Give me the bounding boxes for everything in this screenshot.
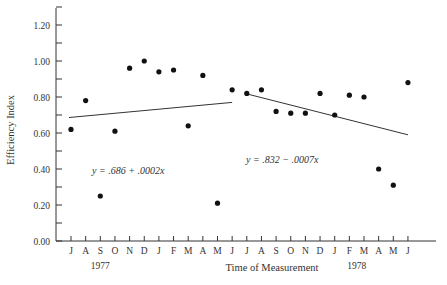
- x-tick-label: A: [375, 246, 382, 256]
- x-tick-label: M: [184, 246, 193, 256]
- x-tick-label: F: [171, 246, 176, 256]
- data-point: [347, 93, 352, 98]
- regression-equation-1: y = .686 + .0002x: [91, 165, 165, 176]
- data-point: [332, 112, 337, 117]
- y-tick-label: 1.20: [33, 21, 50, 31]
- data-point: [171, 67, 176, 72]
- data-point: [68, 127, 73, 132]
- x-tick-label: O: [112, 246, 119, 256]
- data-point: [98, 193, 103, 198]
- data-point: [391, 183, 396, 188]
- x-tick-label: D: [317, 246, 324, 256]
- x-tick-label: J: [333, 246, 337, 256]
- y-tick-label: 0.60: [33, 129, 50, 139]
- y-tick-label: 1.00: [33, 57, 50, 67]
- x-tick-label: S: [98, 246, 103, 256]
- data-point: [112, 129, 117, 134]
- regression-equation-2: y = .832 − .0007x: [245, 154, 319, 165]
- x-tick-label: O: [287, 246, 294, 256]
- data-point: [405, 80, 410, 85]
- data-point: [83, 98, 88, 103]
- x-tick-label: M: [213, 246, 222, 256]
- x-tick-label: J: [245, 246, 249, 256]
- regression-lines: [69, 93, 408, 134]
- data-point: [186, 123, 191, 128]
- axes: [56, 8, 436, 241]
- x-tick-label: M: [389, 246, 398, 256]
- regression-line-1: [69, 102, 232, 117]
- y-tick-label: 0.40: [33, 165, 50, 175]
- data-point: [215, 201, 220, 206]
- y-axis-title: Efficiency Index: [5, 94, 16, 165]
- x-tick-label: M: [360, 246, 369, 256]
- data-point: [127, 66, 132, 71]
- x-tick-label: N: [302, 246, 309, 256]
- data-point: [303, 111, 308, 116]
- x-tick-label: N: [126, 246, 133, 256]
- data-point: [230, 87, 235, 92]
- scatter-chart: 0.000.200.400.600.801.001.20 JASONDJFMAM…: [0, 0, 447, 285]
- x-tick-label: J: [157, 246, 161, 256]
- x-tick-label: D: [141, 246, 148, 256]
- y-tick-label: 0.20: [33, 201, 50, 211]
- y-tick-label: 0.80: [33, 93, 50, 103]
- x-tick-label: F: [347, 246, 352, 256]
- data-point: [274, 109, 279, 114]
- data-point: [376, 166, 381, 171]
- x-tick-label: A: [82, 246, 89, 256]
- regression-line-2: [245, 93, 408, 134]
- data-point: [361, 94, 366, 99]
- data-point: [288, 111, 293, 116]
- x-tick-label: S: [273, 246, 278, 256]
- x-tick-label: J: [69, 246, 73, 256]
- data-point: [142, 58, 147, 63]
- data-point: [259, 87, 264, 92]
- year-label: 1977: [91, 261, 110, 271]
- y-axis-ticks: 0.000.200.400.600.801.001.20: [33, 7, 62, 247]
- x-tick-label: J: [406, 246, 410, 256]
- year-label: 1978: [347, 261, 366, 271]
- y-tick-label: 0.00: [33, 237, 50, 247]
- data-point: [244, 91, 249, 96]
- data-point: [200, 73, 205, 78]
- x-tick-label: A: [258, 246, 265, 256]
- x-tick-label: J: [230, 246, 234, 256]
- data-point: [317, 91, 322, 96]
- x-axis-title: Time of Measurement: [226, 262, 319, 273]
- data-point: [156, 69, 161, 74]
- x-tick-label: A: [199, 246, 206, 256]
- data-points: [68, 58, 410, 205]
